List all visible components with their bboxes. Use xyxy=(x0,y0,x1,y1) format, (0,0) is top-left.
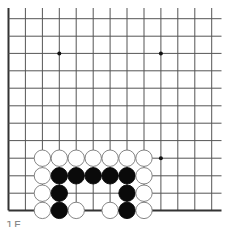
black-stone xyxy=(51,168,67,184)
star-point-icon xyxy=(159,156,163,160)
white-stone xyxy=(68,150,84,166)
black-stone xyxy=(102,168,118,184)
white-stone xyxy=(34,185,50,201)
white-stone xyxy=(119,150,135,166)
white-stone xyxy=(102,202,118,218)
go-board xyxy=(0,0,227,227)
black-stone xyxy=(119,202,135,218)
black-stone xyxy=(68,168,84,184)
white-stone xyxy=(34,168,50,184)
white-stone xyxy=(102,150,118,166)
white-stone xyxy=(136,150,152,166)
white-stone xyxy=(136,185,152,201)
diagram-caption: 1E xyxy=(6,220,22,227)
black-stone xyxy=(119,185,135,201)
white-stone xyxy=(136,202,152,218)
white-stone xyxy=(34,150,50,166)
star-point-icon xyxy=(57,51,61,55)
black-stone xyxy=(51,185,67,201)
white-stone xyxy=(136,168,152,184)
black-stone xyxy=(119,168,135,184)
white-stone xyxy=(51,150,67,166)
star-point-icon xyxy=(159,51,163,55)
white-stone xyxy=(85,150,101,166)
white-stone xyxy=(68,202,84,218)
black-stone xyxy=(51,202,67,218)
white-stone xyxy=(34,202,50,218)
black-stone xyxy=(85,168,101,184)
